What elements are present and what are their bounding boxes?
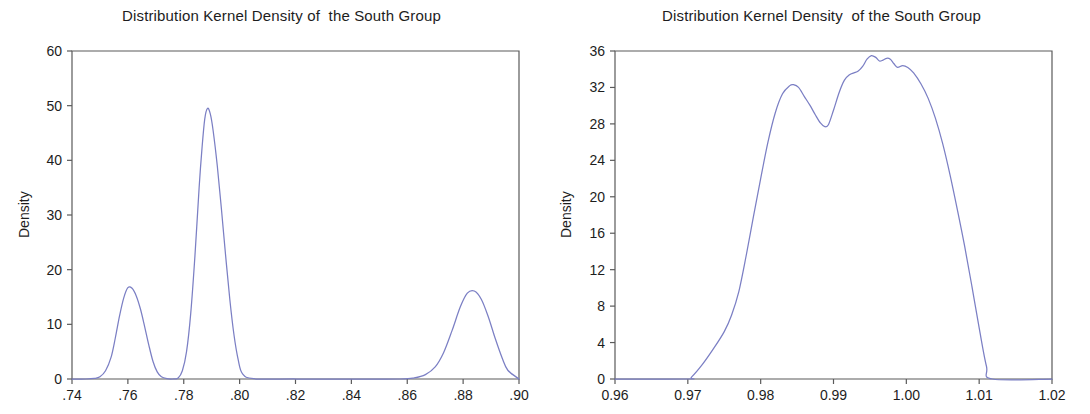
y-tick-label: 12	[589, 262, 605, 278]
x-tick-label: 1.02	[1038, 387, 1065, 403]
x-tick-label: .90	[509, 387, 528, 403]
y-tick-label: 30	[46, 207, 62, 223]
x-tick-label: 0.99	[820, 387, 847, 403]
y-tick-label: 16	[589, 225, 605, 241]
chart-panel-right: Distribution Kernel Density of the South…	[545, 0, 1090, 414]
y-tick-label: 4	[597, 335, 605, 351]
plot-area-right	[545, 0, 1090, 414]
y-tick-label: 60	[46, 43, 62, 59]
x-tick-label: 0.98	[747, 387, 774, 403]
plot-area-left	[0, 0, 545, 414]
y-tick-label: 0	[54, 371, 62, 387]
x-tick-label: .74	[62, 387, 81, 403]
x-tick-label: 0.96	[601, 387, 628, 403]
y-tick-label: 0	[597, 371, 605, 387]
x-tick-label: 0.97	[674, 387, 701, 403]
x-tick-label: .88	[453, 387, 472, 403]
x-tick-label: .84	[342, 387, 361, 403]
kernel-density-figure: Distribution Kernel Density of the South…	[0, 0, 1090, 414]
x-tick-label: .76	[118, 387, 137, 403]
y-tick-label: 8	[597, 298, 605, 314]
x-tick-label: .78	[174, 387, 193, 403]
x-tick-label: .86	[398, 387, 417, 403]
chart-panel-left: Distribution Kernel Density of the South…	[0, 0, 545, 414]
y-tick-label: 20	[589, 189, 605, 205]
y-tick-label: 20	[46, 262, 62, 278]
density-curve	[615, 56, 1052, 380]
y-tick-label: 50	[46, 98, 62, 114]
x-tick-label: 1.01	[966, 387, 993, 403]
x-tick-label: 1.00	[893, 387, 920, 403]
y-tick-label: 36	[589, 43, 605, 59]
y-tick-label: 40	[46, 152, 62, 168]
density-curve	[72, 108, 519, 379]
x-tick-label: .80	[230, 387, 249, 403]
y-tick-label: 24	[589, 152, 605, 168]
y-tick-label: 10	[46, 316, 62, 332]
y-tick-label: 28	[589, 116, 605, 132]
x-tick-label: .82	[286, 387, 305, 403]
y-tick-label: 32	[589, 79, 605, 95]
